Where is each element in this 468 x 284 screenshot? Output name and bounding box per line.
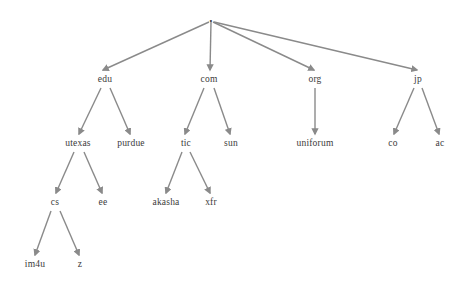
tree-node-akasha: akasha: [152, 198, 179, 208]
tree-node-cs: cs: [51, 198, 59, 208]
tree-node-purdue: purdue: [117, 139, 145, 149]
tree-node-jp: jp: [414, 75, 422, 85]
tree-edge-jp-to-ac: [422, 88, 439, 134]
tree-node-uniforum: uniforum: [297, 139, 334, 149]
tree-edge-jp-to-co: [394, 88, 414, 134]
tree-edge-root-to-edu: [103, 22, 209, 70]
tree-node-sun: sun: [224, 139, 238, 149]
tree-node-ac: ac: [436, 139, 445, 149]
tree-edge-tic-to-xfr: [190, 152, 210, 193]
tree-edge-root-to-org: [213, 22, 314, 70]
tree-edge-utexas-to-cs: [56, 152, 74, 193]
tree-node-im4u: im4u: [25, 260, 45, 270]
tree-node-edu: edu: [98, 75, 112, 85]
tree-node-org: org: [308, 75, 321, 85]
tree-edge-com-to-sun: [214, 88, 230, 134]
tree-edge-root-to-com: [210, 22, 211, 70]
tree-edge-cs-to-z: [60, 211, 79, 255]
tree-node-root: .: [209, 11, 212, 24]
tree-node-z: z: [78, 260, 82, 270]
tree-edge-utexas-to-ee: [84, 152, 102, 193]
tree-node-co: co: [388, 139, 397, 149]
tree-edge-com-to-tic: [185, 88, 204, 134]
tree-node-ee: ee: [99, 198, 108, 208]
tree-edge-tic-to-akasha: [166, 152, 182, 193]
tree-edge-cs-to-im4u: [35, 211, 51, 255]
tree-node-xfr: xfr: [205, 198, 217, 208]
tree-node-com: com: [201, 75, 218, 85]
tree-node-utexas: utexas: [65, 139, 90, 149]
dns-hierarchy-diagram: .educomorgjputexaspurdueticsununiforumco…: [0, 0, 468, 284]
tree-edge-root-to-jp: [214, 22, 417, 70]
tree-node-tic: tic: [181, 139, 191, 149]
tree-edge-edu-to-purdue: [110, 88, 130, 134]
tree-edge-edu-to-utexas: [79, 88, 101, 134]
